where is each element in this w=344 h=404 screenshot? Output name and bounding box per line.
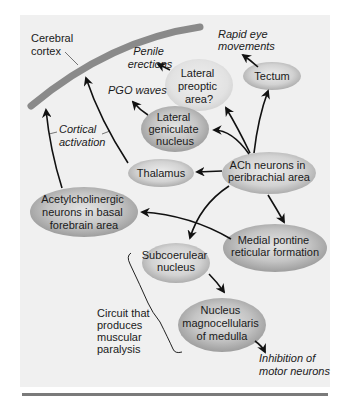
thalamus-label: Thalamus bbox=[137, 167, 186, 179]
tectum-label: Tectum bbox=[254, 70, 289, 82]
rapid-eye-movements-label: Rapid eye movements bbox=[218, 28, 275, 52]
node-lateral-geniculate: Lateral geniculate nucleus bbox=[141, 106, 209, 152]
node-lateral-preoptic: Lateral preoptic area? bbox=[165, 59, 233, 111]
node-ach-peribrachial: ACh neurons in peribrachial area bbox=[222, 152, 316, 194]
node-magnocellularis: Nucleus magnocellularis of medulla bbox=[178, 298, 266, 352]
bottom-rule bbox=[22, 393, 328, 396]
node-tectum: Tectum bbox=[243, 62, 301, 90]
node-thalamus: Thalamus bbox=[128, 159, 194, 187]
diagram-canvas: Cerebral cortex Cortical activation Late… bbox=[0, 0, 344, 404]
cortical-activation-label: Cortical activation bbox=[59, 123, 105, 148]
arrow-ach-to-thalamus bbox=[197, 171, 222, 172]
medial-pontine-label: Medial pontine reticular formation bbox=[231, 234, 319, 258]
node-medial-pontine: Medial pontine reticular formation bbox=[223, 224, 327, 272]
pgo-waves-label: PGO waves bbox=[108, 84, 167, 96]
basal-forebrain-label: Acetylcholinergic neurons in basal foreb… bbox=[41, 193, 127, 231]
node-basal-forebrain: Acetylcholinergic neurons in basal foreb… bbox=[30, 187, 138, 237]
node-subcoerulear: Subcoerulear nucleus bbox=[142, 243, 211, 283]
penile-erections-label: Penile erections bbox=[128, 45, 173, 70]
ach-peribrachial-label: ACh neurons in peribrachial area bbox=[228, 159, 311, 183]
